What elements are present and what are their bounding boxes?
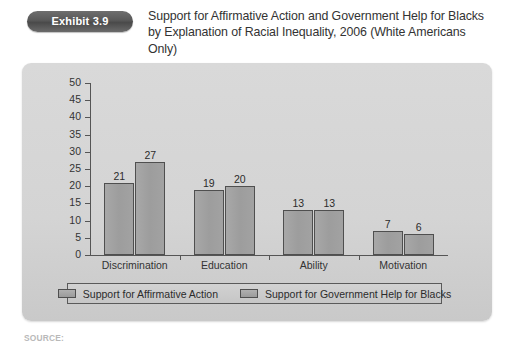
y-tick-mark <box>85 100 90 101</box>
y-tick-group: 45 <box>90 100 91 101</box>
bar: 7 <box>373 231 403 255</box>
y-tick-mark <box>85 221 90 222</box>
y-tick-group: 20 <box>90 186 91 187</box>
legend-label: Support for Affirmative Action <box>83 288 218 300</box>
bar: 13 <box>283 210 313 255</box>
x-axis-category-label: Discrimination <box>102 259 168 271</box>
y-tick-mark <box>85 169 90 170</box>
y-tick-group: 50 <box>90 83 91 84</box>
y-tick-mark <box>85 203 90 204</box>
y-tick-label: 25 <box>69 162 81 174</box>
legend-item-affirmative-action: Support for Affirmative Action <box>58 288 218 300</box>
y-tick-mark <box>85 135 90 136</box>
y-tick-label: 20 <box>69 179 81 191</box>
y-tick-group: 10 <box>90 221 91 222</box>
y-tick-group: 25 <box>90 169 91 170</box>
y-tick-label: 40 <box>69 110 81 122</box>
x-tick-mark <box>180 255 181 260</box>
y-tick-group: 0 <box>90 255 91 256</box>
y-tick-label: 15 <box>69 196 81 208</box>
bar-value-label: 7 <box>385 218 391 230</box>
bar-value-label: 20 <box>234 173 246 185</box>
figure-header: Exhibit 3.9 Support for Affirmative Acti… <box>0 0 516 62</box>
y-tick-group: 15 <box>90 203 91 204</box>
y-tick-group: 35 <box>90 135 91 136</box>
x-axis-category-label: Motivation <box>379 259 427 271</box>
y-tick-group: 40 <box>90 117 91 118</box>
bar-value-label: 6 <box>416 221 422 233</box>
y-tick-label: 35 <box>69 128 81 140</box>
bar: 13 <box>314 210 344 255</box>
chart-panel: 05101520253035404550 21271920131376 Disc… <box>22 63 492 321</box>
y-tick-group: 30 <box>90 152 91 153</box>
y-tick-mark <box>85 238 90 239</box>
exhibit-badge: Exhibit 3.9 <box>27 11 133 32</box>
y-tick-label: 0 <box>75 248 81 260</box>
y-tick-mark <box>85 152 90 153</box>
bar-value-label: 13 <box>292 197 304 209</box>
legend-swatch-icon <box>240 289 258 298</box>
plot-area: 05101520253035404550 21271920131376 Disc… <box>90 83 448 255</box>
y-tick-mark <box>85 186 90 187</box>
legend-item-government-help: Support for Government Help for Blacks <box>240 288 451 300</box>
x-axis-category-label: Education <box>201 259 248 271</box>
bar: 19 <box>194 190 224 255</box>
bar-value-label: 19 <box>203 177 215 189</box>
bar: 20 <box>225 186 255 255</box>
bar: 21 <box>104 183 134 255</box>
y-tick-label: 30 <box>69 145 81 157</box>
figure-title: Support for Affirmative Action and Gover… <box>148 8 488 57</box>
x-tick-mark <box>269 255 270 260</box>
y-tick-mark <box>85 255 90 256</box>
bar-value-label: 21 <box>113 170 125 182</box>
source-note: SOURCE: <box>24 333 64 343</box>
y-tick-label: 45 <box>69 93 81 105</box>
bar-value-label: 27 <box>144 149 156 161</box>
y-tick-mark <box>85 117 90 118</box>
bar: 6 <box>404 234 434 255</box>
x-tick-mark <box>359 255 360 260</box>
y-tick-label: 50 <box>69 76 81 88</box>
bar-value-label: 13 <box>323 197 335 209</box>
y-tick-mark <box>85 83 90 84</box>
bar: 27 <box>135 162 165 255</box>
y-tick-label: 5 <box>75 231 81 243</box>
y-tick-group: 5 <box>90 238 91 239</box>
legend-label: Support for Government Help for Blacks <box>265 288 451 300</box>
legend-swatch-icon <box>58 289 76 298</box>
y-tick-label: 10 <box>69 214 81 226</box>
x-axis-category-label: Ability <box>300 259 328 271</box>
chart-legend: Support for Affirmative Action Support f… <box>67 283 442 304</box>
